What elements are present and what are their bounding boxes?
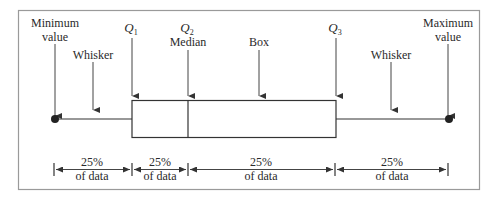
segment-4-caption: of data <box>376 169 410 183</box>
whisker-right-label: Whisker <box>371 48 412 62</box>
box-plot-diagram: Minimum value Whisker Q1 Q2 Median Box Q… <box>0 0 496 199</box>
q3-label: Q3 <box>328 20 341 37</box>
segment-2-caption: of data <box>144 169 178 183</box>
segment-1-caption: of data <box>76 169 110 183</box>
segment-2-percent: 25% <box>149 155 171 169</box>
box-label: Box <box>249 35 269 49</box>
q3-subscript: 3 <box>338 28 342 37</box>
segment-4-percent: 25% <box>381 155 403 169</box>
minimum-label-line2: value <box>42 30 68 44</box>
segment-1-percent: 25% <box>81 155 103 169</box>
interquartile-box <box>132 101 336 138</box>
minimum-point <box>51 115 59 123</box>
bottom-segments: 25% of data 25% of data 25% of data 25% … <box>54 155 448 183</box>
segment-3-caption: of data <box>245 169 279 183</box>
q1-subscript: 1 <box>134 28 138 37</box>
q1-label: Q1 <box>124 20 137 37</box>
median-label: Median <box>170 35 207 49</box>
maximum-point <box>445 115 453 123</box>
segment-3-percent: 25% <box>250 155 272 169</box>
minimum-label-line1: Minimum <box>31 16 80 30</box>
whisker-left-label: Whisker <box>73 48 114 62</box>
maximum-label-line1: Maximum <box>423 16 474 30</box>
maximum-label-line2: value <box>435 30 461 44</box>
